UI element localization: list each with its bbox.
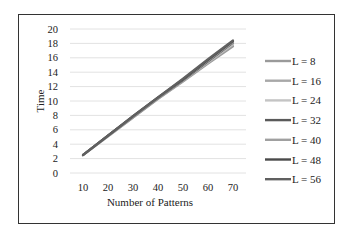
y-tick-label: 10	[48, 96, 59, 107]
y-axis-title: Time	[34, 89, 46, 112]
y-tick-label: 18	[48, 38, 59, 49]
legend-label: L = 16	[292, 75, 322, 87]
x-tick-label: 70	[228, 182, 239, 193]
legend-label: L = 48	[292, 154, 322, 166]
legend-label: L = 32	[292, 114, 321, 126]
y-tick-label: 14	[48, 67, 59, 78]
x-tick-label: 20	[103, 182, 114, 193]
y-tick-label: 0	[53, 168, 58, 179]
y-tick-label: 20	[48, 24, 59, 35]
legend-label: L = 56	[292, 173, 322, 185]
x-axis-title: Number of Patterns	[107, 196, 193, 208]
y-tick-label: 4	[53, 139, 59, 150]
x-tick-label: 10	[78, 182, 89, 193]
y-tick-label: 12	[48, 81, 59, 92]
legend-label: L = 8	[292, 55, 316, 67]
y-tick-label: 2	[53, 153, 58, 164]
x-tick-label: 60	[203, 182, 214, 193]
line-chart: 0246810121416182010203040506070Number of…	[0, 0, 354, 235]
x-tick-label: 30	[128, 182, 139, 193]
y-tick-label: 8	[53, 110, 58, 121]
x-tick-label: 40	[153, 182, 164, 193]
x-tick-label: 50	[178, 182, 189, 193]
legend-label: L = 40	[292, 134, 322, 146]
y-tick-label: 16	[48, 52, 59, 63]
y-tick-label: 6	[53, 124, 58, 135]
legend-label: L = 24	[292, 94, 322, 106]
